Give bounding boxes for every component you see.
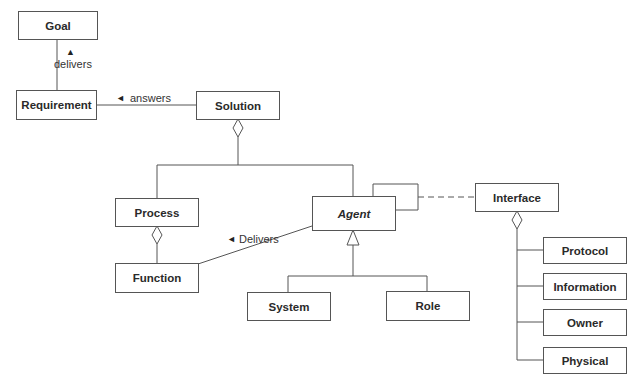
class-information-label: Information: [553, 281, 616, 293]
class-protocol-label: Protocol: [562, 245, 609, 257]
delivers-association-line: [198, 226, 312, 264]
class-solution-label: Solution: [215, 100, 261, 112]
generalization-triangle: [347, 230, 359, 245]
delivers-left-arrow-icon: ◄: [227, 235, 236, 244]
class-information[interactable]: Information: [543, 273, 627, 300]
class-physical-label: Physical: [562, 355, 609, 367]
class-owner[interactable]: Owner: [543, 309, 627, 336]
class-system-label: System: [269, 301, 310, 313]
class-agent-label: Agent: [338, 208, 371, 220]
interface-aggregation-diamond: [512, 211, 522, 229]
class-role[interactable]: Role: [386, 291, 470, 321]
class-interface-label: Interface: [493, 192, 541, 204]
class-role-label: Role: [416, 300, 441, 312]
delivers-up-arrow-icon: ▲: [66, 48, 75, 57]
class-solution[interactable]: Solution: [196, 91, 280, 120]
class-goal[interactable]: Goal: [18, 11, 98, 40]
process-aggregation-diamond: [152, 226, 162, 244]
class-requirement-label: Requirement: [21, 99, 91, 111]
class-physical[interactable]: Physical: [543, 347, 627, 374]
class-function[interactable]: Function: [115, 263, 199, 293]
class-goal-label: Goal: [45, 20, 71, 32]
class-function-label: Function: [133, 272, 182, 284]
class-agent[interactable]: Agent: [312, 196, 396, 231]
answers-label: answers: [130, 93, 171, 104]
class-requirement[interactable]: Requirement: [16, 90, 97, 120]
uml-diagram: Goal Requirement Solution Process Functi…: [0, 0, 637, 387]
delivers-function-label: Delivers: [239, 234, 279, 245]
class-interface[interactable]: Interface: [475, 183, 559, 212]
solution-aggregation-diamond: [233, 119, 243, 137]
class-protocol[interactable]: Protocol: [543, 237, 627, 264]
class-process[interactable]: Process: [115, 198, 199, 227]
class-system[interactable]: System: [247, 292, 331, 321]
delivers-goal-label: delivers: [54, 59, 92, 70]
answers-left-arrow-icon: ◄: [116, 94, 125, 103]
class-process-label: Process: [135, 207, 180, 219]
class-owner-label: Owner: [567, 317, 603, 329]
